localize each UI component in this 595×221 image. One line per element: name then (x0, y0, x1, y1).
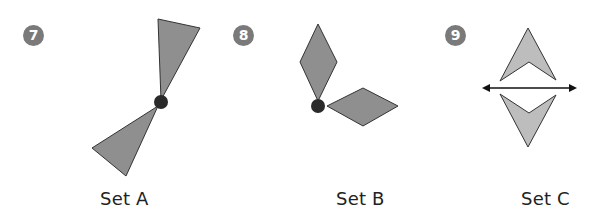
set-b-vertical-rhombus (300, 24, 337, 101)
set-c-figure (484, 28, 575, 147)
problem-number-badge-9: 9 (445, 25, 466, 46)
problem-number-badge-8: 8 (233, 25, 254, 46)
set-a-center-dot (154, 95, 168, 109)
set-b-horizontal-rhombus (327, 88, 398, 126)
set-c-lower-arrowhead (500, 94, 556, 147)
set-b-label: Set B (336, 188, 385, 209)
set-c-upper-arrowhead (500, 28, 556, 81)
set-b-figure (300, 24, 398, 126)
set-a-label: Set A (100, 188, 149, 209)
set-a-figure (92, 19, 200, 176)
set-c-label: Set C (521, 188, 570, 209)
problem-number-badge-7: 7 (23, 25, 44, 46)
set-b-center-dot (311, 99, 325, 113)
set-a-upper-triangle (158, 19, 200, 100)
set-a-lower-triangle (92, 106, 158, 176)
diagram-canvas (0, 0, 595, 221)
